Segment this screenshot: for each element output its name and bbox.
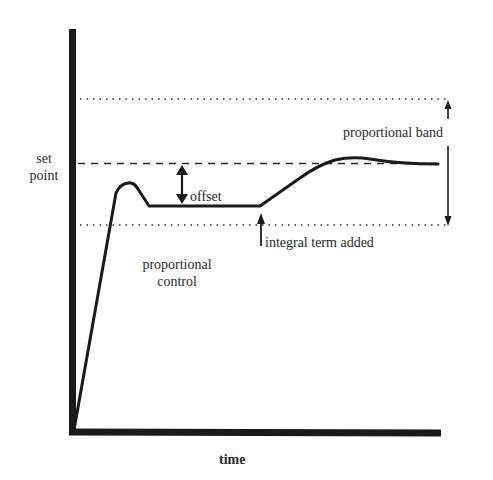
y-axis-label-line2: point [22, 167, 66, 184]
x-axis [69, 432, 441, 433]
x-axis-label: time [219, 451, 245, 468]
y-axis-label-line1: set [22, 150, 66, 167]
y-axis-label: set point [22, 150, 66, 184]
proportional-control-line2: control [122, 273, 232, 290]
proportional-control-label: proportional control [122, 256, 232, 290]
control-response-diagram [0, 0, 493, 480]
integral-term-arrow-icon [257, 213, 265, 246]
proportional-control-line1: proportional [122, 256, 232, 273]
proportional-band-label: proportional band [343, 124, 443, 141]
proportional-band-arrow-icon [445, 100, 452, 226]
offset-arrow-icon [176, 165, 188, 204]
integral-term-added-label: integral term added [265, 234, 374, 251]
response-curve [74, 158, 438, 430]
offset-label: offset [190, 188, 222, 205]
